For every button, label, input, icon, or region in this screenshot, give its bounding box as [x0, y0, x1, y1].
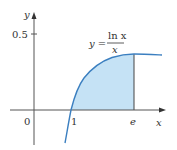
origin-label: 0 [24, 116, 30, 127]
x-tick-label-e: e [130, 116, 136, 127]
x-tick-label-1: 1 [71, 116, 77, 127]
x-axis-arrow-icon [159, 108, 166, 113]
equation-denominator: x [112, 44, 118, 55]
y-tick-label-half: 0.5 [12, 29, 28, 40]
chart-canvas: y 0.5 0 1 e x y = ln x x [0, 0, 177, 150]
equation-label: y = ln x x [88, 30, 127, 55]
y-axis-arrow-icon [32, 12, 37, 19]
equation-lhs: y = [88, 38, 106, 49]
equation-numerator: ln x [108, 30, 127, 41]
x-axis-label: x [156, 117, 162, 128]
y-axis-label: y [23, 9, 30, 20]
